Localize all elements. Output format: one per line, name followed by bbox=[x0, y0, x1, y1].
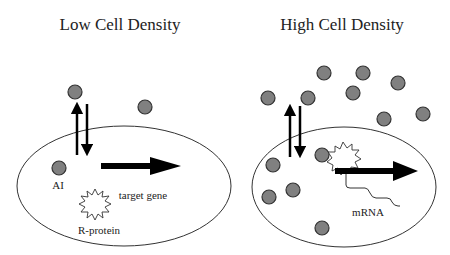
quorum-sensing-diagram: Low Cell Density AI target gene R-protei… bbox=[0, 0, 450, 255]
autoinducer-molecule bbox=[391, 76, 405, 90]
autoinducer-molecule bbox=[138, 100, 152, 114]
autoinducer-molecule bbox=[68, 85, 82, 99]
cell-membrane bbox=[17, 126, 231, 246]
autoinducer-molecule bbox=[315, 221, 329, 235]
diffusion-arrows-icon bbox=[290, 106, 300, 157]
autoinducer-molecule bbox=[262, 190, 276, 204]
panel-title-high: High Cell Density bbox=[280, 15, 404, 34]
transcription-arrow-icon bbox=[101, 157, 181, 175]
autoinducer-molecule bbox=[317, 66, 331, 80]
autoinducer-molecule bbox=[377, 112, 391, 126]
panel-high-density: High Cell Density mRNA bbox=[252, 15, 436, 247]
bound-autoinducer-molecule bbox=[315, 148, 329, 162]
r-protein-icon bbox=[79, 189, 111, 220]
mrna-strand-icon bbox=[346, 174, 400, 206]
autoinducer-molecule bbox=[356, 66, 370, 80]
autoinducer-molecule bbox=[286, 183, 300, 197]
label-r-protein: R-protein bbox=[78, 224, 121, 236]
autoinducer-molecule bbox=[52, 161, 66, 175]
autoinducer-molecule bbox=[416, 107, 430, 121]
panel-title-low: Low Cell Density bbox=[60, 15, 181, 34]
label-ai: AI bbox=[52, 179, 64, 191]
autoinducer-molecule bbox=[261, 91, 275, 105]
autoinducer-molecule bbox=[346, 86, 360, 100]
panel-low-density: Low Cell Density AI target gene R-protei… bbox=[17, 15, 231, 246]
autoinducer-molecule bbox=[301, 91, 315, 105]
label-target-gene: target gene bbox=[119, 189, 167, 201]
label-mrna: mRNA bbox=[352, 206, 384, 218]
autoinducer-molecule bbox=[266, 158, 280, 172]
